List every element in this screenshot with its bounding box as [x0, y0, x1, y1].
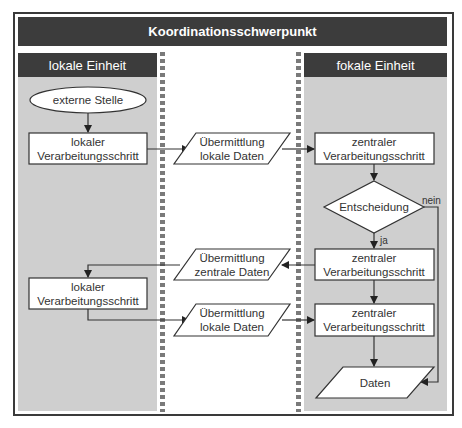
flowchart-canvas: Koordinationsschwerpunkt lokale Einheit …	[0, 0, 462, 428]
edge-label-no: nein	[422, 195, 441, 206]
label-transfer-central-line2: zentrale Daten	[195, 266, 270, 278]
label-central1-line1: zentraler	[352, 136, 397, 148]
label-local1-line1: lokaler	[71, 136, 105, 148]
edge-label-yes: ja	[379, 235, 388, 246]
label-local2-line1: lokaler	[71, 281, 105, 293]
label-transfer-central-line1: Übermittlung	[199, 252, 264, 264]
label-central2-line1: zentraler	[352, 252, 397, 264]
label-central3-line2: Verarbeitungsschritt	[323, 321, 425, 333]
flowchart-svg: externe Stelle lokaler Verarbeitungsschr…	[0, 0, 462, 428]
label-central1-line2: Verarbeitungsschritt	[323, 150, 425, 162]
label-central3-line1: zentraler	[352, 307, 397, 319]
label-transfer2-line1: Übermittlung	[199, 307, 264, 319]
label-transfer1-line2: lokale Daten	[200, 150, 264, 162]
label-local1-line2: Verarbeitungsschritt	[37, 150, 139, 162]
label-external: externe Stelle	[53, 94, 123, 106]
label-transfer2-line2: lokale Daten	[200, 321, 264, 333]
edge-transfer-central-to-local2	[88, 265, 180, 277]
label-data: Daten	[360, 377, 391, 389]
label-transfer1-line1: Übermittlung	[199, 136, 264, 148]
label-local2-line2: Verarbeitungsschritt	[37, 295, 139, 307]
label-decision: Entscheidung	[339, 201, 409, 213]
edge-decision-no	[421, 207, 438, 382]
edge-local2-to-transfer2	[88, 309, 189, 320]
label-central2-line2: Verarbeitungsschritt	[323, 266, 425, 278]
